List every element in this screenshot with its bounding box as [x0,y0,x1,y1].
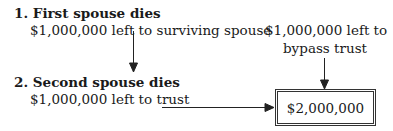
arrowhead-right-icon [265,104,274,112]
arrowhead-down-icon [321,80,329,89]
step2-heading: 2. Second spouse dies [14,74,180,90]
bypass-line2: bypass trust [265,40,385,56]
total-value: $2,000,000 [287,100,364,116]
step2-detail: $1,000,000 left to trust [30,91,189,107]
step1-heading: 1. First spouse dies [14,5,161,21]
bypass-line1: $1,000,000 left to [265,22,385,38]
total-box: $2,000,000 [275,89,376,126]
step1-detail: $1,000,000 left to surviving spouse [30,22,271,38]
arrowhead-down-icon [130,63,138,72]
